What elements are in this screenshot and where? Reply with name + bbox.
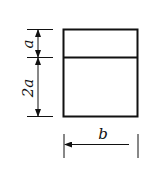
horizontal-dimension: b	[64, 125, 138, 158]
label-b: b	[98, 125, 108, 143]
label-a: a	[19, 40, 37, 49]
rectangle	[63, 30, 138, 117]
vertical-dimensions: a 2a	[19, 30, 53, 117]
label-2a: 2a	[19, 79, 37, 99]
diagram-canvas: a 2a b	[0, 0, 161, 172]
